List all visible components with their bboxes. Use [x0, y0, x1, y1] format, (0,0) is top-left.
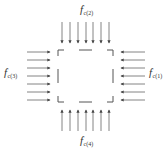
bottom-arrows [62, 110, 109, 131]
square-element [58, 50, 113, 102]
stress-diagram: f′c(2) f′c(3) f′c(1) f′c(4) [0, 0, 167, 150]
right-arrows [121, 52, 145, 100]
top-arrows [62, 22, 109, 43]
diagram-canvas [0, 0, 167, 150]
label-right: f′c(1) [149, 67, 162, 79]
label-bottom: f′c(4) [80, 135, 93, 147]
left-arrows [27, 52, 50, 100]
label-left: f′c(3) [4, 67, 17, 79]
label-top: f′c(2) [80, 4, 93, 16]
